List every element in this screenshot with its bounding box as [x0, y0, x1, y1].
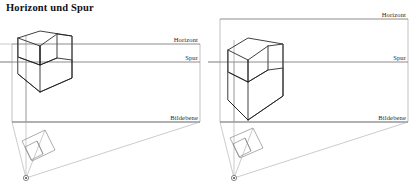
perspective-construction-svg	[0, 0, 416, 190]
drawing-stage	[0, 0, 416, 190]
viewpoint-marker-left	[23, 175, 28, 180]
right-object-thin-edges	[228, 44, 283, 100]
label-bildebene-right: Bildebene	[378, 114, 406, 121]
figure-root: Horizont und Spur	[0, 0, 416, 190]
viewpoint-marker-right	[231, 175, 236, 180]
left-plan-view	[22, 130, 55, 161]
right-object-cube	[228, 38, 283, 120]
label-horizont-left: Horizont	[174, 36, 198, 43]
panel-left	[0, 31, 200, 181]
panel-right	[208, 19, 408, 181]
label-spur-left: Spur	[185, 54, 198, 61]
label-bildebene-left: Bildebene	[170, 114, 198, 121]
left-edge-ticks	[0, 44, 12, 62]
label-horizont-right: Horizont	[382, 11, 406, 18]
label-spur-right: Spur	[393, 54, 406, 61]
right-plan-view	[230, 128, 263, 158]
